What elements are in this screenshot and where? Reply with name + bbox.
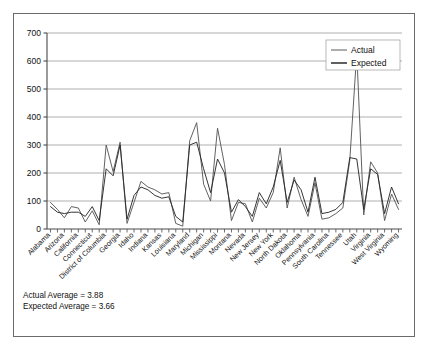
line-chart: 0100200300400500600700 AlabamaArizonaCal…: [14, 14, 414, 336]
x-axis-category-labels: AlabamaArizonaCaliforniaConnecticutDistr…: [25, 230, 399, 281]
svg-text:100: 100: [27, 196, 41, 206]
svg-text:Actual Average = 3.88: Actual Average = 3.88: [23, 291, 104, 300]
svg-text:Expected: Expected: [351, 58, 387, 68]
svg-text:Actual: Actual: [351, 45, 375, 55]
svg-text:300: 300: [27, 140, 41, 150]
svg-text:400: 400: [27, 112, 41, 122]
data-series-group: [50, 53, 398, 227]
svg-text:500: 500: [27, 84, 41, 94]
chart-figure-frame: 0100200300400500600700 AlabamaArizonaCal…: [13, 13, 415, 337]
svg-text:600: 600: [27, 56, 41, 66]
chart-notes: Actual Average = 3.88Expected Average = …: [23, 291, 115, 311]
svg-text:700: 700: [27, 28, 41, 38]
svg-text:200: 200: [27, 168, 41, 178]
y-axis-tick-labels: 0100200300400500600700: [27, 28, 41, 234]
svg-text:0: 0: [36, 224, 41, 234]
chart-legend: ActualExpected: [326, 40, 400, 70]
svg-text:Expected Average = 3.66: Expected Average = 3.66: [23, 302, 115, 311]
